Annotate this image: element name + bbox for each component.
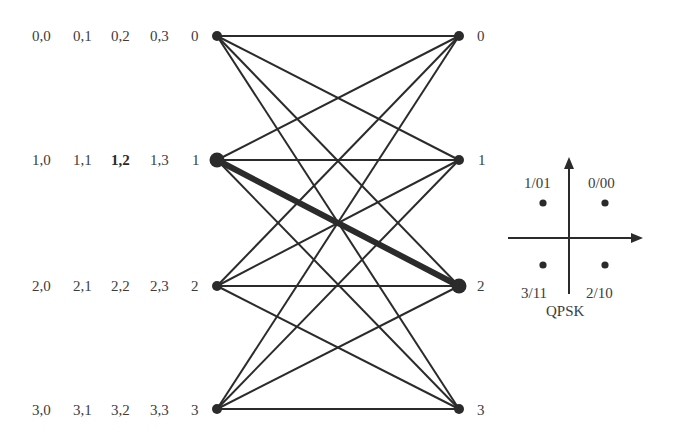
state-node-right xyxy=(452,279,467,294)
branch-label: 3,0 xyxy=(32,401,51,419)
trellis-diagram xyxy=(0,0,677,438)
branch-label: 0,0 xyxy=(32,27,51,45)
state-node-left xyxy=(212,31,222,41)
qpsk-point-1-01 xyxy=(539,199,546,206)
qpsk-point-2-10 xyxy=(601,261,608,268)
state-node-left xyxy=(210,153,225,168)
branch-label-selected: 1,2 xyxy=(111,151,130,169)
state-label-left: 3 xyxy=(191,401,199,419)
branch-label: 1,1 xyxy=(73,151,92,169)
qpsk-title: QPSK xyxy=(546,302,584,320)
branch-label: 1,3 xyxy=(150,151,169,169)
state-node-right xyxy=(454,155,464,165)
branch-label: 2,0 xyxy=(32,277,51,295)
qpsk-point-3-11 xyxy=(539,261,546,268)
state-node-right xyxy=(454,404,464,414)
branch-label: 2,2 xyxy=(111,277,130,295)
branch-label: 2,3 xyxy=(150,277,169,295)
branch-label: 0,2 xyxy=(111,27,130,45)
branch-label: 3,1 xyxy=(73,401,92,419)
state-node-right xyxy=(454,31,464,41)
qpsk-label-0-00: 0/00 xyxy=(588,174,615,192)
qpsk-label-3-11: 3/11 xyxy=(521,284,547,302)
arrow-right-icon xyxy=(631,233,643,243)
state-node-left xyxy=(212,404,222,414)
state-label-left: 1 xyxy=(192,151,200,169)
state-label-right: 1 xyxy=(478,151,486,169)
qpsk-label-2-10: 2/10 xyxy=(586,284,613,302)
state-label-left: 0 xyxy=(191,27,199,45)
state-label-right: 3 xyxy=(477,401,485,419)
state-label-right: 2 xyxy=(477,277,485,295)
qpsk-label-1-01: 1/01 xyxy=(524,174,551,192)
arrow-up-icon xyxy=(564,157,574,169)
branch-label: 0,1 xyxy=(73,27,92,45)
branch-label: 0,3 xyxy=(150,27,169,45)
branch-label: 2,1 xyxy=(73,277,92,295)
state-label-right: 0 xyxy=(477,27,485,45)
branch-label: 3,2 xyxy=(111,401,130,419)
state-node-left xyxy=(212,281,222,291)
branch-label: 1,0 xyxy=(32,151,51,169)
qpsk-point-0-00 xyxy=(601,199,608,206)
branch-label: 3,3 xyxy=(150,401,169,419)
state-label-left: 2 xyxy=(191,277,199,295)
